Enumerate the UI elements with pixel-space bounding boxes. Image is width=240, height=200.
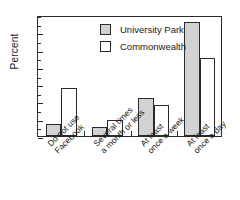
legend-swatch-university-park bbox=[100, 24, 111, 35]
legend-label: University Park bbox=[120, 25, 184, 35]
y-axis-minor-tick bbox=[38, 17, 41, 18]
y-axis-tick bbox=[38, 138, 43, 139]
y-axis-tick bbox=[38, 103, 43, 104]
legend-swatch-commonwealth bbox=[100, 41, 111, 52]
bar-chart: Percent 0102030405060 University Park Co… bbox=[0, 0, 240, 200]
y-axis-tick bbox=[38, 69, 43, 70]
y-axis-minor-tick bbox=[38, 26, 41, 27]
y-axis-minor-tick bbox=[38, 112, 41, 113]
y-axis-tick bbox=[38, 52, 43, 53]
y-axis-tick bbox=[38, 86, 43, 87]
x-axis-tick bbox=[131, 131, 132, 136]
y-axis-minor-tick bbox=[38, 60, 41, 61]
y-axis-title: Percent bbox=[9, 17, 20, 87]
legend-item: Commonwealth bbox=[100, 38, 210, 55]
y-axis-tick bbox=[38, 34, 43, 35]
chart-legend: University Park Commonwealth bbox=[100, 21, 210, 55]
legend-item: University Park bbox=[100, 21, 210, 38]
y-axis-minor-tick bbox=[38, 129, 41, 130]
x-axis-tick bbox=[177, 131, 178, 136]
y-axis-minor-tick bbox=[38, 43, 41, 44]
y-axis-tick bbox=[38, 121, 43, 122]
y-axis-minor-tick bbox=[38, 95, 41, 96]
x-axis-tick bbox=[84, 131, 85, 136]
legend-label: Commonwealth bbox=[120, 42, 186, 52]
y-axis-minor-tick bbox=[38, 78, 41, 79]
